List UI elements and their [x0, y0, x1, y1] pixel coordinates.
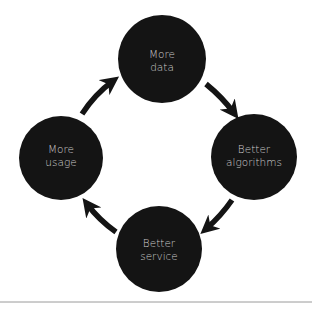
arrow-more-usage-to-more-data [82, 81, 113, 114]
arrow-better-service-to-more-usage [87, 204, 116, 232]
node-label-line1: More [48, 143, 74, 155]
node-better-algorithms: Better algorithms [211, 114, 297, 200]
node-label-line2: service [140, 250, 178, 262]
diagram-svg: More data Better algorithms Better servi… [0, 0, 312, 309]
arrow-more-data-to-better-algorithms [206, 84, 234, 113]
node-more-usage: More usage [19, 116, 103, 200]
node-label-line2: algorithms [226, 156, 282, 168]
node-label-line1: Better [143, 237, 176, 249]
node-label-line1: Better [238, 143, 271, 155]
node-better-service: Better service [116, 206, 202, 292]
node-circle [116, 206, 202, 292]
node-label-line2: data [150, 61, 174, 73]
cycle-diagram: More data Better algorithms Better servi… [0, 0, 312, 309]
node-more-data: More data [118, 15, 206, 103]
node-label-line2: usage [45, 156, 76, 168]
arrow-better-algorithms-to-better-service [206, 200, 232, 229]
node-label-line1: More [149, 48, 175, 60]
